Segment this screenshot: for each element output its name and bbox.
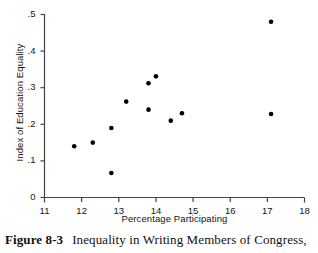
x-tick-label: 18 [293,205,317,216]
y-tick-label: .5 [14,8,36,19]
data-point [146,107,151,112]
data-point [154,74,159,79]
x-tick-label: 17 [255,205,279,216]
y-tick-label: .4 [14,45,36,56]
data-point [124,99,129,104]
data-point [72,144,77,149]
x-tick-label: 15 [181,205,205,216]
data-point [90,140,95,145]
data-point [168,118,173,123]
data-point [109,126,114,131]
y-axis-title: Index of Education Equality [14,13,25,193]
data-point [146,81,151,86]
y-tick-label: .3 [14,81,36,92]
x-tick-label: 14 [144,205,168,216]
x-tick-label: 16 [218,205,242,216]
data-point [180,111,185,116]
figure-caption: Figure 8-3Inequality in Writing Members … [5,232,318,248]
plot-canvas [0,0,318,212]
y-tick-label: .2 [14,118,36,129]
y-tick-label: .1 [14,154,36,165]
data-point [269,20,274,25]
figure-caption-label: Figure 8-3 [5,232,63,247]
data-point [109,171,114,176]
x-tick-label: 12 [70,205,94,216]
figure-caption-text: Inequality in Writing Members of Congres… [72,232,307,247]
figure-container: Index of Education Equality Percentage P… [0,0,318,253]
y-tick-label: 0 [14,191,36,202]
x-tick-label: 11 [33,205,57,216]
scatter-chart: Index of Education Equality Percentage P… [0,0,318,212]
x-tick-label: 13 [107,205,131,216]
data-point [269,112,274,117]
